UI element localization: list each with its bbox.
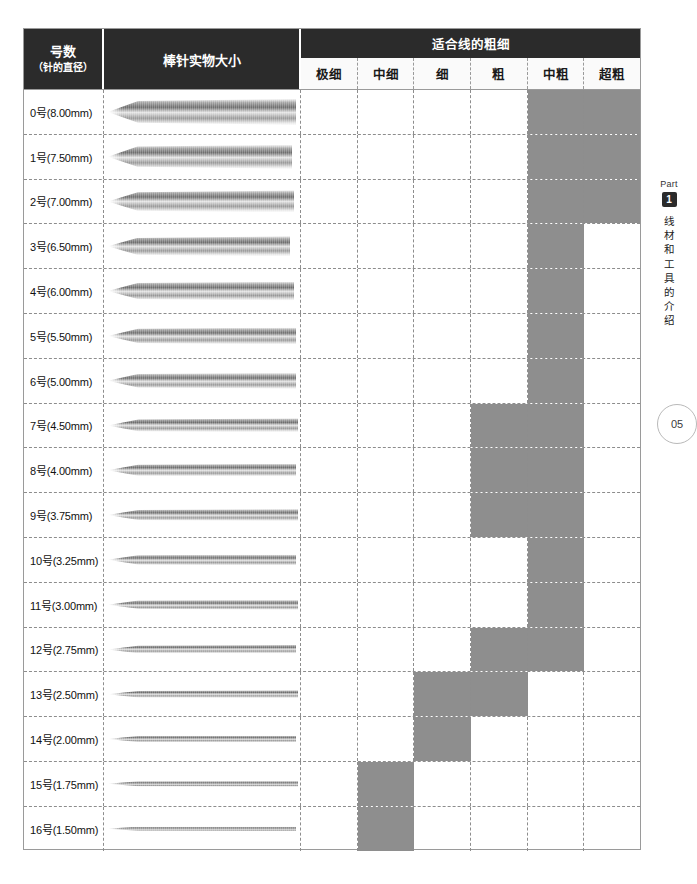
thickness-cell-超粗 — [584, 135, 640, 179]
part-label: Part — [660, 180, 678, 189]
thickness-cell-粗 — [471, 135, 528, 179]
thickness-cell-中细 — [358, 672, 415, 716]
knitting-needle-image — [108, 145, 292, 169]
thickness-cell-极细 — [301, 180, 358, 224]
side-vertical-char-2: 和 — [664, 242, 674, 256]
knitting-needle-image — [108, 736, 296, 743]
side-vertical-title: 线材和工具的介绍 — [664, 214, 674, 327]
thickness-cell-中细 — [358, 762, 415, 806]
thickness-cell-极细 — [301, 224, 358, 268]
cell-needle-photo — [104, 628, 301, 672]
thickness-cell-中粗 — [528, 762, 585, 806]
cell-needle-photo — [104, 762, 301, 806]
knitting-needle-image — [108, 781, 298, 787]
knitting-needle-image — [108, 600, 298, 610]
thickness-cell-中粗 — [528, 628, 585, 672]
header-number-line1: 号数 — [50, 44, 76, 60]
thickness-cell-粗 — [471, 717, 528, 761]
cell-needle-photo — [104, 807, 301, 851]
thickness-cell-极细 — [301, 90, 358, 134]
thickness-cell-细 — [414, 180, 471, 224]
thickness-cell-细 — [414, 135, 471, 179]
thickness-cell-粗 — [471, 493, 528, 537]
thickness-cell-细 — [414, 269, 471, 313]
thickness-cell-中细 — [358, 717, 415, 761]
side-vertical-char-0: 线 — [664, 214, 674, 228]
thickness-cell-中细 — [358, 135, 415, 179]
part-number-badge: 1 — [662, 192, 677, 207]
table-row: 15号(1.75mm) — [24, 761, 640, 806]
thickness-cell-超粗 — [584, 717, 640, 761]
thickness-cell-细 — [414, 359, 471, 403]
thickness-cell-细 — [414, 762, 471, 806]
table-row: 7号(4.50mm) — [24, 403, 640, 448]
table-row: 12号(2.75mm) — [24, 627, 640, 672]
thickness-cell-极细 — [301, 404, 358, 448]
thickness-cell-粗 — [471, 180, 528, 224]
thickness-cell-粗 — [471, 583, 528, 627]
table-header: 号数 （针的直径） 棒针实物大小 适合线的粗细 极细中细细粗中粗超粗 — [24, 29, 640, 89]
cell-needle-photo — [104, 180, 301, 224]
thickness-cell-中粗 — [528, 359, 585, 403]
cell-needle-size: 7号(4.50mm) — [24, 404, 104, 448]
thickness-cell-超粗 — [584, 672, 640, 716]
cell-thickness-group — [301, 717, 640, 761]
thickness-cell-超粗 — [584, 359, 640, 403]
cell-needle-photo — [104, 224, 301, 268]
cell-thickness-group — [301, 404, 640, 448]
table-row: 1号(7.50mm) — [24, 134, 640, 179]
thickness-cell-中粗 — [528, 538, 585, 582]
side-vertical-char-4: 具 — [664, 271, 674, 285]
cell-thickness-group — [301, 180, 640, 224]
thickness-cell-极细 — [301, 717, 358, 761]
thickness-cell-超粗 — [584, 90, 640, 134]
cell-needle-photo — [104, 269, 301, 313]
thickness-cell-细 — [414, 224, 471, 268]
thickness-cell-中粗 — [528, 314, 585, 358]
knitting-needle-image — [108, 509, 298, 521]
thickness-cell-粗 — [471, 448, 528, 492]
thickness-cell-细 — [414, 583, 471, 627]
thickness-cell-极细 — [301, 583, 358, 627]
cell-needle-photo — [104, 90, 301, 134]
table-row: 6号(5.00mm) — [24, 358, 640, 403]
thickness-cell-极细 — [301, 314, 358, 358]
cell-needle-size: 12号(2.75mm) — [24, 628, 104, 672]
cell-thickness-group — [301, 538, 640, 582]
knitting-needle-image — [108, 236, 290, 256]
cell-thickness-group — [301, 628, 640, 672]
thickness-cell-极细 — [301, 807, 358, 851]
cell-needle-size: 2号(7.00mm) — [24, 180, 104, 224]
thickness-cell-中粗 — [528, 807, 585, 851]
thickness-cell-超粗 — [584, 314, 640, 358]
thickness-cell-粗 — [471, 269, 528, 313]
table-row: 14号(2.00mm) — [24, 716, 640, 761]
thickness-cell-细 — [414, 538, 471, 582]
cell-needle-size: 1号(7.50mm) — [24, 135, 104, 179]
cell-needle-photo — [104, 717, 301, 761]
thickness-cell-中细 — [358, 269, 415, 313]
cell-thickness-group — [301, 583, 640, 627]
cell-needle-size: 13号(2.50mm) — [24, 672, 104, 716]
thickness-cell-细 — [414, 807, 471, 851]
thickness-cell-极细 — [301, 672, 358, 716]
cell-thickness-group — [301, 359, 640, 403]
thickness-cell-超粗 — [584, 493, 640, 537]
thickness-cell-极细 — [301, 762, 358, 806]
thickness-column-header-4: 中粗 — [528, 58, 585, 89]
thickness-cell-中细 — [358, 314, 415, 358]
thickness-cell-中细 — [358, 628, 415, 672]
thickness-cell-中粗 — [528, 583, 585, 627]
cell-needle-size: 4号(6.00mm) — [24, 269, 104, 313]
thickness-cell-中粗 — [528, 90, 585, 134]
thickness-cell-中粗 — [528, 717, 585, 761]
thickness-cell-细 — [414, 448, 471, 492]
cell-needle-size: 0号(8.00mm) — [24, 90, 104, 134]
knitting-needle-image — [108, 99, 296, 125]
table-row: 5号(5.50mm) — [24, 313, 640, 358]
knitting-needle-image — [108, 327, 296, 344]
knitting-needle-image — [108, 282, 294, 301]
thickness-cell-中细 — [358, 493, 415, 537]
table-body: 0号(8.00mm)1号(7.50mm)2号(7.00mm)3号(6.50mm)… — [24, 89, 640, 851]
thickness-cell-极细 — [301, 493, 358, 537]
